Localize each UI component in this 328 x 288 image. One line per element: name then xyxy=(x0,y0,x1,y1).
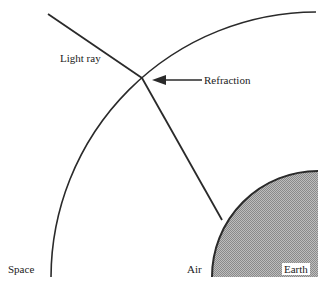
earth-shape xyxy=(212,171,318,277)
earth-label: Earth xyxy=(282,263,310,275)
incident-light-ray xyxy=(48,14,142,78)
refraction-diagram xyxy=(0,0,328,288)
refracted-light-ray xyxy=(142,78,222,220)
refraction-arrowhead-icon xyxy=(152,75,166,85)
space-label: Space xyxy=(8,263,34,275)
refraction-label: Refraction xyxy=(204,74,250,86)
air-label: Air xyxy=(187,263,202,275)
light-ray-label: Light ray xyxy=(60,52,101,64)
